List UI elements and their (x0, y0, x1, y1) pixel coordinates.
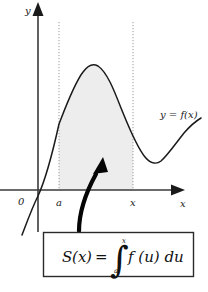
integral-lower-limit: a (114, 267, 118, 275)
tick-label-lower-limit: a (56, 197, 62, 208)
figure-container: y x 0 a x y = f(x) S ( x ) = ∫ x a f (u)… (0, 0, 208, 292)
formula-function-name: S (62, 248, 72, 266)
tick-label-upper-limit: x (130, 197, 136, 208)
formula-close-paren: ) (85, 248, 92, 266)
integral-upper-limit: x (122, 237, 126, 245)
curve-label: y = f(x) (159, 109, 198, 120)
x-axis-label: x (180, 198, 186, 209)
formula-integrand: f (u) du (127, 248, 184, 266)
formula-equals: = (95, 248, 108, 266)
integral-area-figure: y x 0 a x y = f(x) S ( x ) = ∫ x a f (u)… (0, 0, 208, 292)
integral-sign-icon: ∫ (110, 239, 129, 280)
origin-label: 0 (18, 196, 25, 207)
y-axis-label: y (24, 5, 31, 16)
